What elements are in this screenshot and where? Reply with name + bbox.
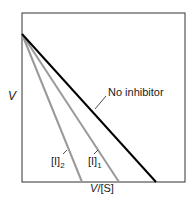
label-leader-line [95, 96, 106, 109]
label-leader-line [94, 150, 98, 154]
label-leader-line [63, 150, 67, 154]
y-axis-label: V [8, 89, 17, 103]
eadie-hofstee-chart: V V/[S] No inhibitor[I]1[I]2 [0, 0, 194, 200]
series-label: [I]1 [88, 155, 102, 170]
series-label: No inhibitor [108, 86, 164, 98]
series-line [22, 34, 119, 182]
x-axis-label: V/[S] [90, 182, 114, 194]
label-layer: V V/[S] No inhibitor[I]1[I]2 [8, 86, 164, 194]
series-label: [I]2 [51, 155, 65, 170]
